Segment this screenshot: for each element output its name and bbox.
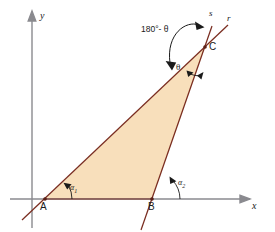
figure-canvas: y x A B C s r α1 α2 θ 180°- θ [0,0,275,232]
line-r-label: r [227,13,231,23]
point-a-label: A [40,201,47,212]
supplement-angle-arrowhead-bottom [166,61,177,71]
angle-alpha2-arrowhead [170,177,177,184]
geometry-diagram [0,0,275,232]
x-axis-arrowhead [240,195,250,203]
point-c-dot [203,45,207,49]
x-axis-label: x [252,200,256,211]
angle-alpha1-label: α1 [70,183,77,194]
angle-theta-label: θ [176,62,180,72]
angle-theta-arrowhead-right [197,72,204,80]
y-axis-arrowhead [28,11,36,21]
supplement-angle-label: 180°- θ [141,24,169,34]
angle-alpha2-label: α2 [178,178,185,189]
supplement-angle-arrowhead-top [195,21,205,30]
line-s-label: s [209,8,213,18]
point-b-label: B [148,201,155,212]
y-axis-label: y [40,10,44,21]
point-c-label: C [209,41,216,52]
